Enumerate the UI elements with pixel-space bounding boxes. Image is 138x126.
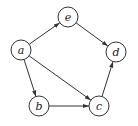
nodes-layer: aedbc <box>11 7 126 116</box>
node-b: b <box>29 96 49 116</box>
edges-layer <box>24 23 113 106</box>
node-label: e <box>65 11 72 24</box>
directed-graph: aedbc <box>0 0 138 126</box>
edge-e-to-d <box>76 23 108 46</box>
node-d: d <box>106 42 126 62</box>
node-e: e <box>58 7 78 27</box>
edge-a-to-c <box>29 56 91 100</box>
node-label: d <box>112 46 119 59</box>
node-label: c <box>96 100 102 113</box>
node-c: c <box>89 96 109 116</box>
node-label: b <box>35 100 42 113</box>
node-a: a <box>11 40 31 60</box>
edge-a-to-e <box>29 23 60 45</box>
edge-c-to-d <box>102 62 113 97</box>
node-label: a <box>18 44 25 57</box>
edge-a-to-b <box>24 60 36 97</box>
